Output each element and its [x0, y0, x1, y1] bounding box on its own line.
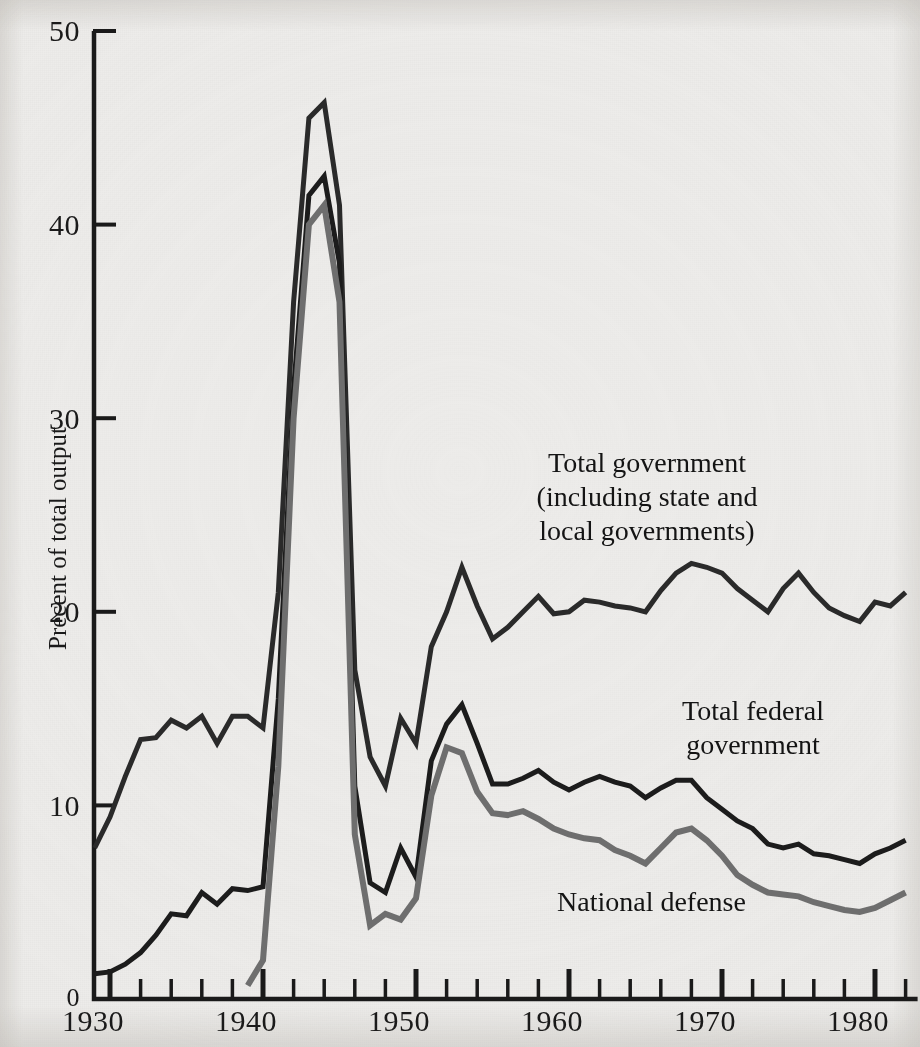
y-tick-label-40: 40 [32, 208, 80, 242]
x-tick-label-1940: 1940 [215, 1004, 277, 1038]
y-axis-ticks [93, 31, 116, 805]
y-tick-label-50: 50 [32, 14, 80, 48]
series-line-2 [248, 205, 906, 985]
x-tick-label-1930: 1930 [62, 1004, 124, 1038]
x-tick-label-1960: 1960 [521, 1004, 583, 1038]
y-axis-title: Precent of total output [44, 427, 72, 650]
annotation-national-defense: National defense [557, 885, 807, 919]
x-tick-label-1970: 1970 [674, 1004, 736, 1038]
y-tick-label-10: 10 [32, 789, 80, 823]
x-tick-label-1950: 1950 [368, 1004, 430, 1038]
x-tick-label-1980: 1980 [827, 1004, 889, 1038]
annotation-total-government: Total government (including state and lo… [497, 446, 797, 548]
annotation-total-federal: Total federal government [648, 694, 858, 762]
series-line-1 [95, 176, 906, 974]
x-axis-ticks [110, 969, 906, 1000]
chart-figure: 50 40 30 20 10 0 1930 1940 1950 1960 197… [0, 0, 920, 1047]
